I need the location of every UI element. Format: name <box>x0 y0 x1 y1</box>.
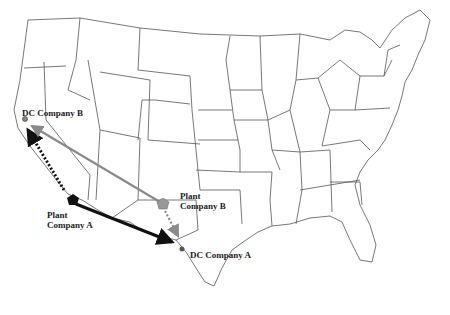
label-plant-company-b-line2: Company B <box>180 201 226 211</box>
route-plant-b-to-dc-a <box>165 211 178 236</box>
label-plant-company-a-line1: Plant <box>47 210 68 220</box>
route-plant-b-to-dc-b <box>32 126 160 202</box>
route-plant-a-to-dc-b <box>28 130 64 190</box>
label-plant-company-b-line1: Plant <box>180 191 201 201</box>
label-plant-company-a-line2: Company A <box>47 220 93 230</box>
state-borders <box>14 10 430 286</box>
markers <box>23 117 185 252</box>
us-map <box>0 0 450 315</box>
label-dc-company-a: DC Company A <box>190 250 251 260</box>
label-dc-company-b: DC Company B <box>22 108 83 118</box>
plant-company-a-marker <box>67 194 79 205</box>
dc-company-a-marker <box>180 247 185 252</box>
